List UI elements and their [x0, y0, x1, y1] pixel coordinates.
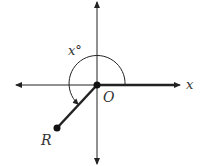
origin-label: O [103, 89, 115, 105]
x-axis-label: x [186, 77, 194, 92]
terminal-ray-OR [57, 85, 97, 128]
angle-diagram: x° O R x [0, 0, 203, 166]
origin-point [94, 82, 101, 89]
point-R [54, 125, 61, 132]
point-R-label: R [40, 132, 52, 148]
angle-label: x° [68, 43, 82, 58]
